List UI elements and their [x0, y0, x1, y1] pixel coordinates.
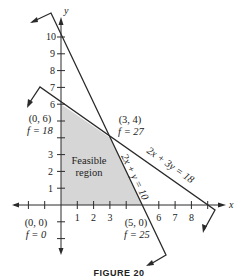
vertex-0-0-f: f = 0	[26, 229, 47, 240]
vertex-3-4-point: (3, 4)	[119, 114, 142, 126]
y-tick-3: 3	[48, 149, 53, 160]
y-axis-arrow-down	[59, 248, 64, 255]
y-tick-10: 10	[46, 31, 56, 42]
constraint-arrow-left	[27, 99, 33, 108]
x-tick-2: 2	[91, 212, 96, 223]
vertex-5-0-point: (5, 0)	[125, 217, 148, 229]
vertex-5-0-f: f = 25	[124, 229, 150, 240]
vertex-0-6-f: f = 18	[27, 125, 54, 136]
y-tick-7: 7	[50, 82, 55, 93]
x-axis-label: x	[228, 199, 234, 210]
x-tick-6: 6	[156, 212, 161, 223]
constraint-arrow-bottom	[146, 260, 154, 266]
y-tick-6: 6	[50, 99, 55, 110]
y-tick-1: 1	[48, 183, 53, 194]
y-tick-2: 2	[48, 166, 53, 177]
constraint-arrow-top	[30, 17, 38, 23]
vertex-0-0-point: (0, 0)	[25, 217, 48, 229]
x-tick-3: 3	[107, 212, 112, 223]
y-tick-9: 9	[50, 48, 55, 59]
x-axis-arrow-right	[218, 203, 226, 208]
figure-caption: FIGURE 20	[0, 268, 238, 278]
y-axis-arrow-up	[59, 17, 64, 25]
y-axis-label: y	[63, 5, 69, 16]
x-tick-1: 1	[75, 212, 80, 223]
x-tick-8: 8	[189, 212, 194, 223]
region-label-line2: region	[76, 167, 104, 178]
vertex-3-4-f: f = 27	[118, 126, 145, 137]
region-label-line1: Feasible	[72, 155, 107, 166]
x-axis-arrow-left	[12, 203, 19, 208]
x-tick-7: 7	[173, 212, 178, 223]
lp-diagram: 1 2 3 6 7 8 x 1 2 3 6 7 8 9 10 y 2x + 3y…	[0, 0, 238, 279]
y-tick-8: 8	[50, 65, 55, 76]
vertex-0-6-point: (0, 6)	[29, 113, 52, 125]
